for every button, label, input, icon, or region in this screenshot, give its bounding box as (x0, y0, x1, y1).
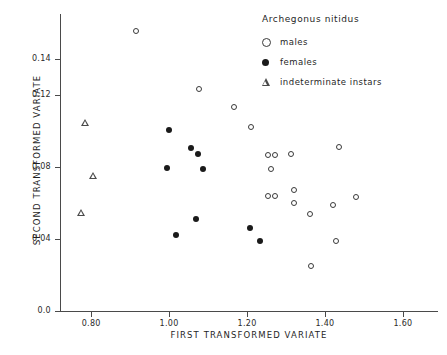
data-point-males (288, 151, 294, 157)
x-axis-title: FIRST TRANSFORMED VARIATE (60, 330, 438, 340)
scatter-plot-figure: 0.00.040.080.120.14 0.801.001.201.401.60… (0, 0, 447, 355)
data-point-males (265, 193, 271, 199)
data-point-females (247, 225, 253, 231)
data-point-females (164, 165, 170, 171)
x-tick-label: 1.40 (305, 319, 345, 328)
filled-circle-icon (262, 59, 280, 66)
legend-title: Archegonus nitidus (262, 14, 442, 24)
y-axis-line (60, 14, 61, 312)
legend-label-males: males (280, 37, 308, 47)
x-tick (169, 312, 170, 317)
x-tick (403, 312, 404, 317)
x-tick-label: 1.60 (383, 319, 423, 328)
data-point-males (330, 202, 336, 208)
legend-item-instars: indeterminate instars (262, 73, 442, 91)
data-point-males (291, 187, 297, 193)
x-tick-label: 0.80 (71, 319, 111, 328)
y-axis-title: SECOND TRANSFORMED VARIATE (32, 45, 42, 275)
y-tick-label: 0.0 (19, 306, 51, 315)
x-tick (91, 312, 92, 317)
data-point-indeterminate (77, 209, 85, 216)
data-point-males (133, 28, 139, 34)
data-point-indeterminate (89, 172, 97, 179)
data-point-females (188, 145, 194, 151)
data-point-males (231, 104, 237, 110)
legend-item-females: females (262, 53, 442, 71)
legend-label-females: females (280, 57, 317, 67)
x-tick-label: 1.20 (227, 319, 267, 328)
data-point-males (196, 86, 202, 92)
data-point-males (265, 152, 271, 158)
x-axis-line (60, 311, 438, 312)
data-point-indeterminate (81, 119, 89, 126)
legend-label-instars: indeterminate instars (280, 77, 382, 87)
data-point-males (308, 263, 314, 269)
data-point-males (291, 200, 297, 206)
data-point-females (173, 232, 179, 238)
data-point-males (268, 166, 274, 172)
data-point-males (272, 193, 278, 199)
open-triangle-icon (262, 78, 280, 86)
data-point-females (200, 166, 206, 172)
x-tick-label: 1.00 (149, 319, 189, 328)
data-point-females (166, 127, 172, 133)
data-point-males (272, 152, 278, 158)
y-tick (55, 59, 60, 60)
data-point-males (248, 124, 254, 130)
x-tick (325, 312, 326, 317)
y-tick (55, 95, 60, 96)
x-tick (247, 312, 248, 317)
legend-item-males: males (262, 33, 442, 51)
data-point-females (257, 238, 263, 244)
y-tick (55, 167, 60, 168)
open-circle-icon (262, 38, 280, 47)
data-point-males (336, 144, 342, 150)
data-point-males (307, 211, 313, 217)
data-point-females (195, 151, 201, 157)
data-point-males (333, 238, 339, 244)
y-tick (55, 239, 60, 240)
legend: Archegonus nitidus males females indeter… (262, 14, 442, 93)
data-point-males (353, 194, 359, 200)
y-tick (55, 311, 60, 312)
data-point-females (193, 216, 199, 222)
